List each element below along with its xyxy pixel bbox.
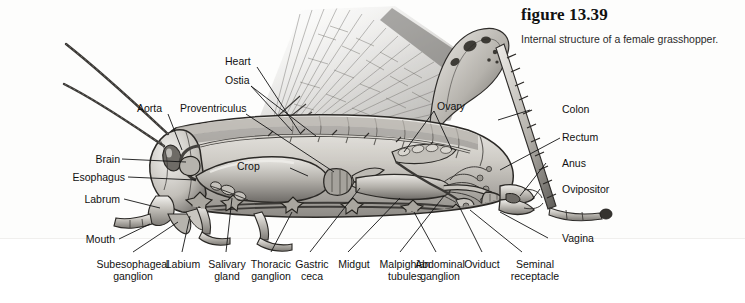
label-line-2: ganglion	[113, 270, 153, 282]
figure-root: figure 13.39 Internal structure of a fem…	[0, 0, 745, 303]
antennae	[64, 44, 168, 146]
label-proventriculus: Proventriculus	[180, 102, 247, 114]
label-line-2: ceca	[301, 270, 323, 282]
label-labrum: Labrum	[10, 193, 120, 205]
label-esophagus: Esophagus	[10, 171, 125, 183]
label-line-2: ganglion	[420, 270, 460, 282]
label-ovipositor: Ovipositor	[562, 183, 609, 195]
label-line-1: Gastric	[295, 258, 328, 270]
label-aorta: Aorta	[137, 102, 162, 114]
label-rectum: Rectum	[562, 131, 598, 143]
label-heart: Heart	[225, 55, 251, 67]
figure-title: Internal structure of a female grasshopp…	[521, 32, 743, 46]
head	[114, 130, 206, 234]
figure-caption: figure 13.39 Internal structure of a fem…	[521, 6, 743, 46]
brain	[180, 156, 201, 175]
label-seminal-receptacle: Seminal receptacle	[500, 258, 570, 283]
label-anus: Anus	[562, 157, 586, 169]
label-crop: Crop	[237, 160, 260, 172]
label-line-1: Seminal	[516, 258, 554, 270]
label-line-1: Thoracic	[251, 258, 291, 270]
label-brain: Brain	[10, 153, 120, 165]
label-midgut: Midgut	[330, 258, 378, 270]
figure-number: figure 13.39	[521, 6, 743, 25]
label-colon: Colon	[562, 103, 589, 115]
label-line-2: receptacle	[511, 270, 559, 282]
labium	[168, 214, 191, 234]
label-mouth: Mouth	[10, 233, 115, 245]
label-vagina: Vagina	[562, 232, 594, 244]
label-gastric-ceca: Gastric ceca	[288, 258, 336, 283]
mid-leg	[254, 212, 292, 251]
label-line-2: gland	[214, 270, 240, 282]
label-ovary: Ovary	[437, 100, 465, 112]
label-ostia: Ostia	[225, 74, 250, 86]
labrum	[148, 196, 174, 225]
label-line-2: ganglion	[251, 270, 291, 282]
proventriculus	[324, 169, 352, 196]
